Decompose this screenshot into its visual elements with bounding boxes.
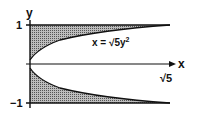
lower-shaded-region <box>30 68 170 103</box>
y-axis-label: y <box>26 6 33 20</box>
tick-y-neg1: −1 <box>10 97 23 109</box>
x-axis-label: x <box>178 57 185 71</box>
tick-y-1: 1 <box>16 19 22 31</box>
region-diagram: y x 1 −1 √5 x = √5y2 <box>0 0 197 121</box>
tick-x-sqrt5: √5 <box>160 72 172 84</box>
curve-label: x = √5y2 <box>92 36 130 48</box>
